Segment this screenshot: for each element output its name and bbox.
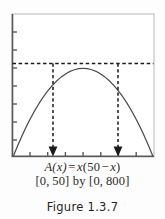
figure-number-label: Figure 1.3.7	[0, 200, 165, 214]
figure-caption-text: A(x)=x(50−x) [0, 50] by [0, 800]	[0, 160, 165, 188]
viewing-window: [0, 50] by [0, 800]	[0, 174, 165, 188]
equation-rhs-operator: −	[100, 160, 110, 174]
equation-lhs: A(x)	[45, 160, 67, 174]
equation-rhs-close-paren: )	[116, 160, 120, 174]
window-x-max: 50]	[52, 174, 69, 188]
plot-frame	[12, 14, 154, 157]
figure-container: A(x)=x(50−x) [0, 50] by [0, 800] Figure …	[0, 0, 165, 219]
equation-equals: =	[67, 160, 77, 174]
window-x-open: [0,	[35, 174, 49, 188]
window-by-label: by	[73, 174, 86, 188]
graph-plot-area	[11, 13, 155, 158]
function-equation: A(x)=x(50−x)	[0, 160, 165, 174]
equation-rhs-constant: 50	[87, 160, 100, 174]
parabola-graph	[11, 13, 155, 158]
window-y-max: 800]	[106, 174, 130, 188]
window-y-open: [0,	[89, 174, 103, 188]
